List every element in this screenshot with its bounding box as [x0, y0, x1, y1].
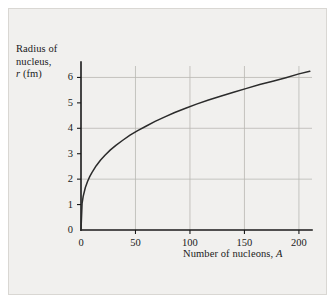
- x-axis-title: Number of nucleons, A: [183, 248, 283, 261]
- y-axis-unit: (fm): [20, 68, 42, 79]
- radius-curve: [81, 71, 310, 230]
- axis-ticks: [77, 77, 299, 234]
- y-tick-label: 1: [55, 199, 73, 210]
- x-tick-label: 0: [66, 237, 96, 248]
- y-tick-label: 3: [55, 148, 73, 159]
- y-axis-title: Radius of nucleus, r (fm): [16, 43, 57, 81]
- y-tick-label: 5: [55, 97, 73, 108]
- horizontal-gridlines: [81, 77, 312, 179]
- x-tick-label: 100: [175, 237, 205, 248]
- y-tick-label: 2: [55, 173, 73, 184]
- y-tick-label: 0: [55, 224, 73, 235]
- x-axis-symbol: A: [276, 248, 283, 259]
- y-axis-title-line-2: nucleus,: [16, 56, 52, 67]
- y-axis-title-line-1: Radius of: [16, 43, 57, 54]
- x-tick-label: 200: [284, 237, 314, 248]
- y-tick-label: 4: [55, 122, 73, 133]
- x-axis-title-text: Number of nucleons,: [183, 248, 276, 259]
- figure-panel: Radius of nucleus, r (fm) Number of nucl…: [8, 8, 327, 295]
- x-tick-label: 50: [120, 237, 150, 248]
- y-tick-label: 6: [55, 71, 73, 82]
- y-axis-unit-line: r (fm): [16, 68, 57, 81]
- x-tick-label: 150: [229, 237, 259, 248]
- vertical-gridlines: [135, 66, 298, 230]
